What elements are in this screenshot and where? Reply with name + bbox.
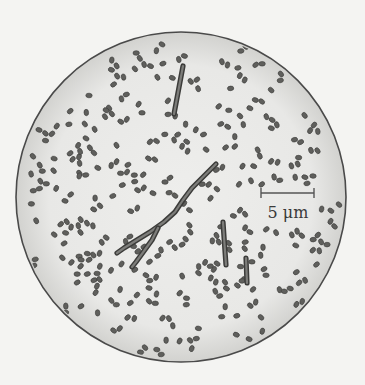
coccus-cell xyxy=(232,133,237,140)
coccus-cell xyxy=(131,173,138,178)
coccus-cell xyxy=(237,264,244,269)
coccus-cell xyxy=(226,108,232,113)
coccus-cell xyxy=(295,155,302,160)
coccus-cell xyxy=(137,350,144,355)
coccus-cell xyxy=(154,47,159,54)
coccus-cell xyxy=(109,162,114,169)
coccus-cell xyxy=(183,121,188,128)
coccus-cell xyxy=(258,252,263,259)
coccus-cell xyxy=(86,93,93,98)
micrograph-figure: 5 μm xyxy=(0,0,365,385)
coccus-cell xyxy=(94,271,101,276)
coccus-cell xyxy=(310,237,317,242)
coccus-cell xyxy=(109,57,114,64)
coccus-cell xyxy=(218,314,225,319)
coccus-cell xyxy=(117,171,124,176)
coccus-cell xyxy=(30,188,37,193)
coccus-cell xyxy=(170,322,175,329)
coccus-cell xyxy=(164,337,169,343)
coccus-cell xyxy=(165,112,172,117)
coccus-cell xyxy=(162,180,168,185)
coccus-cell xyxy=(249,259,256,264)
coccus-cell xyxy=(183,302,190,307)
coccus-cell xyxy=(152,301,159,306)
coccus-cell xyxy=(196,263,201,270)
coccus-cell xyxy=(93,195,98,201)
coccus-cell xyxy=(324,242,331,247)
coccus-cell xyxy=(223,303,228,309)
coccus-cell xyxy=(133,51,139,56)
coccus-cell xyxy=(139,110,146,115)
coccus-cell xyxy=(84,109,89,116)
coccus-cell xyxy=(39,169,46,174)
coccus-cell xyxy=(315,128,320,135)
coccus-cell xyxy=(166,190,173,195)
coccus-cell xyxy=(210,238,215,245)
coccus-cell xyxy=(95,310,100,317)
coccus-cell xyxy=(310,173,317,178)
coccus-cell xyxy=(74,272,81,277)
coccus-cell xyxy=(261,244,266,251)
coccus-cell xyxy=(113,302,120,307)
scale-bar-label: 5 μm xyxy=(268,203,309,222)
coccus-cell xyxy=(28,201,35,206)
coccus-cell xyxy=(43,181,49,186)
rod-short-right-highlight xyxy=(246,258,247,283)
coccus-cell xyxy=(263,273,270,278)
micrograph-svg xyxy=(0,0,365,385)
coccus-cell xyxy=(227,86,234,91)
coccus-cell xyxy=(146,278,153,283)
coccus-cell xyxy=(63,303,68,310)
coccus-cell xyxy=(259,62,265,67)
